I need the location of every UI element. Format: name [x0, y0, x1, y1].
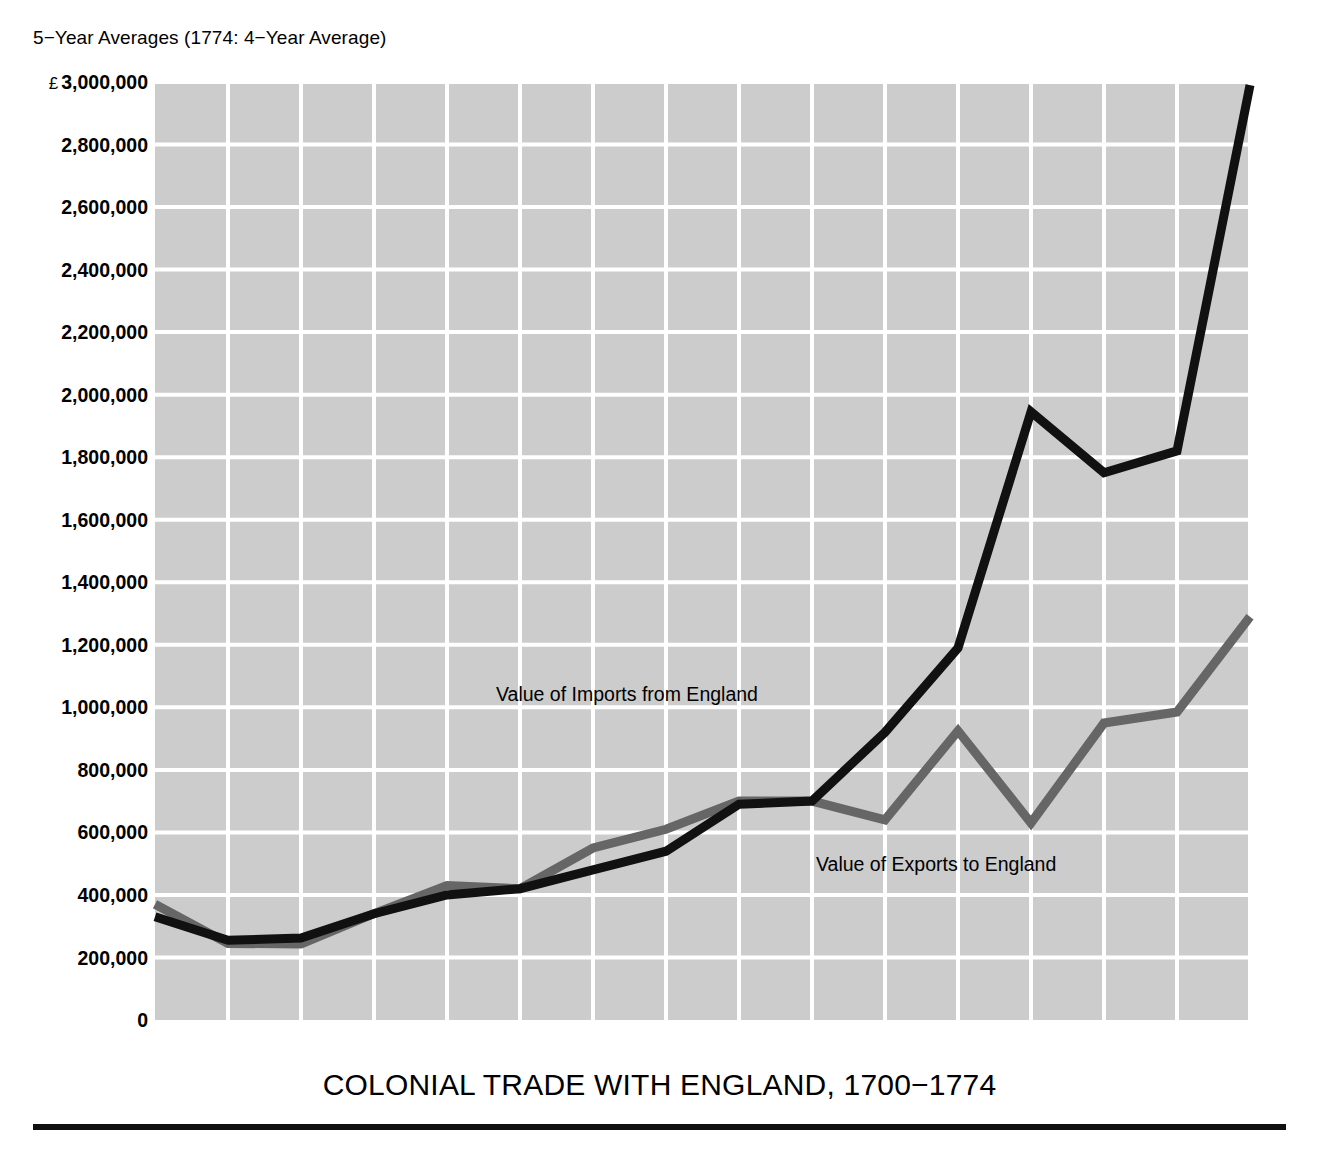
y-axis-tick-label: 1,800,000 — [61, 446, 148, 469]
y-axis-tick-label: 2,000,000 — [61, 383, 148, 406]
currency-symbol: £ — [49, 74, 61, 93]
y-axis-tick-label: 2,400,000 — [61, 258, 148, 281]
y-axis-tick-label: 2,600,000 — [61, 196, 148, 219]
y-axis-tick-label: 400,000 — [78, 883, 149, 906]
annotation-imports: Value of Imports from England — [496, 683, 758, 706]
chart-title: COLONIAL TRADE WITH ENGLAND, 1700−1774 — [0, 1068, 1319, 1102]
y-axis-tick-label: 200,000 — [78, 946, 149, 969]
y-axis-tick-label: 800,000 — [78, 758, 149, 781]
y-axis: 0200,000400,000600,000800,0001,000,0001,… — [0, 82, 148, 1020]
y-axis-tick-label: £3,000,000 — [49, 71, 148, 94]
y-axis-tick-label: 1,200,000 — [61, 633, 148, 656]
y-axis-tick-label: 1,400,000 — [61, 571, 148, 594]
plot-area — [155, 82, 1250, 1020]
y-axis-tick-label: 2,200,000 — [61, 321, 148, 344]
y-axis-tick-label: 0 — [137, 1009, 148, 1032]
chart-figure: 5−Year Averages (1774: 4−Year Average) 0… — [0, 0, 1319, 1165]
annotation-exports: Value of Exports to England — [816, 853, 1056, 876]
y-axis-tick-label: 1,600,000 — [61, 508, 148, 531]
bottom-rule — [33, 1124, 1286, 1130]
y-axis-tick-label: 1,000,000 — [61, 696, 148, 719]
y-axis-tick-label: 2,800,000 — [61, 133, 148, 156]
chart-subtitle: 5−Year Averages (1774: 4−Year Average) — [33, 27, 386, 49]
y-axis-tick-label: 600,000 — [78, 821, 149, 844]
data-series-layer — [155, 82, 1250, 1020]
